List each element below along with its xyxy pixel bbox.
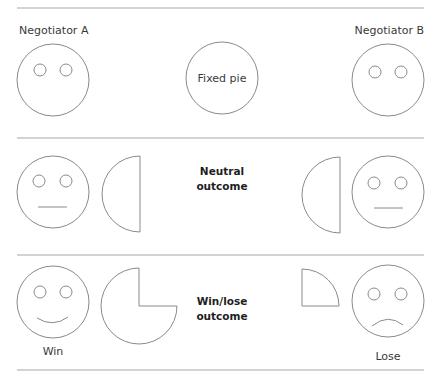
neutral-title-line1: Neutral [200,165,244,177]
neutral-title-line2: outcome [196,180,247,192]
face-negotiator-a-icon [17,44,89,116]
face-negotiator-b-icon [352,44,424,116]
winlose-title-line1: Win/lose [197,295,248,307]
win-caption: Win [43,345,64,358]
half-pie-right-shape [302,157,340,233]
fixed-pie-label: Fixed pie [198,72,247,85]
row-setup: Negotiator A Fixed pie Negotiator B [17,24,424,116]
quarter-pie-icon [302,269,339,306]
row-neutral: Neutral outcome [17,156,424,233]
winlose-title-line2: outcome [196,310,247,322]
face-frown-icon [352,265,424,337]
half-pie-left-icon [102,156,140,232]
negotiator-a-label: Negotiator A [19,24,89,37]
negotiator-b-label: Negotiator B [355,24,424,37]
negotiation-diagram: Negotiator A Fixed pie Negotiator B Neut… [0,0,445,379]
face-smile-icon [17,266,89,338]
face-neutral-right-icon [352,156,424,228]
face-neutral-left-icon [17,156,89,228]
lose-caption: Lose [375,350,400,363]
row-winlose: Win Win/lose outcome Lose [17,265,424,363]
three-quarter-pie-icon [101,268,177,344]
